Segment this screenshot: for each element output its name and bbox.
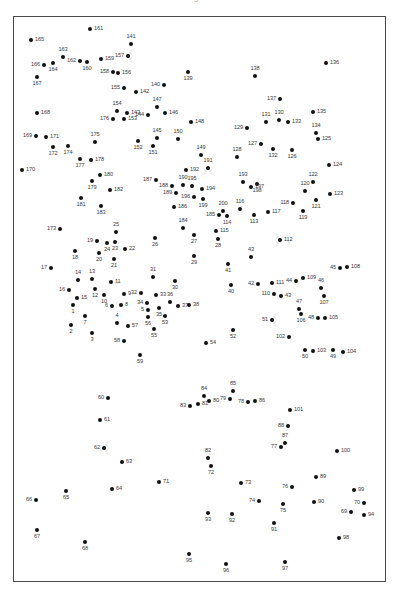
scatter-point-label: 166: [31, 62, 40, 68]
scatter-point-label: 70: [354, 500, 360, 506]
scatter-point-label: 88: [278, 423, 284, 429]
scatter-point-label: 43: [248, 247, 254, 253]
scatter-point-label: 149: [196, 145, 205, 151]
scatter-point-label: 122: [308, 172, 317, 178]
scatter-point-label: 141: [126, 34, 135, 40]
scatter-point-label: 57: [132, 323, 138, 329]
scatter-point-label: 42: [248, 281, 254, 287]
scatter-point-label: 135: [317, 109, 326, 115]
scatter-point-label: 59: [137, 359, 143, 365]
scatter-point-label: 172: [48, 151, 57, 157]
scatter-point-label: 28: [215, 243, 221, 249]
scatter-point-label: 92: [229, 518, 235, 524]
scatter-point-label: 30: [172, 285, 178, 291]
scatter-point-label: 180: [104, 172, 113, 178]
scatter-point-label: 193: [238, 172, 247, 178]
scatter-point-label: 108: [351, 264, 360, 270]
scatter-point-label: 69: [341, 509, 347, 515]
scatter-point-label: 188: [159, 183, 168, 189]
scatter-point-label: 47: [296, 299, 302, 305]
scatter-point-label: 174: [63, 150, 72, 156]
scatter-point-label: 40: [228, 289, 234, 295]
scatter-point-label: 66: [26, 497, 32, 503]
scatter-point-label: 46: [318, 278, 324, 284]
scatter-point-label: 62: [94, 445, 100, 451]
scatter-point-label: 27: [191, 239, 197, 245]
scatter-point-label: 36: [167, 292, 173, 298]
scatter-point-label: 127: [248, 141, 257, 147]
scatter-point-label: 160: [82, 66, 91, 72]
scatter-point-label: 151: [148, 150, 157, 156]
scatter-point-label: 67: [34, 534, 40, 540]
scatter-point-label: 162: [67, 58, 76, 64]
scatter-point-label: 117: [272, 209, 281, 215]
scatter-point-label: 146: [169, 110, 178, 116]
scatter-point-label: 163: [58, 47, 67, 53]
scatter-point-label: 100: [341, 448, 350, 454]
scatter-point-label: 120: [300, 181, 309, 187]
scatter-point-label: 98: [343, 535, 349, 541]
scatter-point-label: 152: [133, 145, 142, 151]
scatter-point-label: 150: [173, 129, 182, 135]
scatter-point-label: 131: [261, 112, 270, 118]
scatter-point-label: 60: [98, 395, 104, 401]
scatter-point-label: 5: [141, 307, 144, 313]
scatter-point-label: 12: [92, 293, 98, 299]
scatter-point-label: 126: [287, 154, 296, 160]
scatter-point-label: 49: [330, 354, 336, 360]
scatter-point-label: 89: [320, 474, 326, 480]
scatter-point-label: 200: [218, 201, 227, 207]
scatter-point-label: 153: [128, 116, 137, 122]
scatter-point-label: 81: [202, 401, 208, 407]
scatter-point-label: 167: [32, 81, 41, 87]
scatter-point-label: 121: [311, 204, 320, 210]
scatter-point-label: 168: [41, 110, 50, 116]
scatter-point-label: 145: [152, 128, 161, 134]
scatter-figure: Figure 165161141163157159162160166164136…: [0, 0, 398, 604]
scatter-point-label: 112: [284, 237, 293, 243]
scatter-point-label: 183: [96, 210, 105, 216]
scatter-point-label: 164: [48, 67, 57, 73]
scatter-point-label: 161: [94, 26, 103, 32]
scatter-point-label: 8: [125, 302, 128, 308]
scatter-point-label: 114: [223, 220, 232, 226]
scatter-point-label: 24: [104, 247, 110, 253]
scatter-point-label: 80: [213, 398, 219, 404]
scatter-point-label: 20: [96, 257, 102, 263]
scatter-point-label: 190: [178, 175, 187, 181]
scatter-point-label: 191: [203, 158, 212, 164]
scatter-point-label: 123: [334, 191, 343, 197]
scatter-point-label: 84: [201, 386, 207, 392]
scatter-point-label: 83: [180, 403, 186, 409]
scatter-point-label: 147: [152, 97, 161, 103]
scatter-point-label: 184: [178, 218, 187, 224]
scatter-point-label: 64: [116, 486, 122, 492]
scatter-point-label: 197: [255, 184, 264, 190]
scatter-point-label: 156: [122, 70, 131, 76]
scatter-point-label: 72: [208, 470, 214, 476]
scatter-point-label: 41: [225, 268, 231, 274]
scatter-point-label: 158: [100, 69, 109, 75]
scatter-point-label: 3: [90, 337, 93, 343]
scatter-point-label: 19: [87, 238, 93, 244]
scatter-point-label: 139: [183, 76, 192, 82]
scatter-point-label: 11: [115, 279, 121, 285]
scatter-point-label: 192: [190, 167, 199, 173]
scatter-point-label: 110: [261, 291, 270, 297]
scatter-point-label: 155: [111, 85, 120, 91]
scatter-point-label: 107: [319, 300, 328, 306]
scatter-point-label: 102: [276, 334, 285, 340]
scatter-point-label: 73: [245, 480, 251, 486]
scatter-point-label: 118: [280, 200, 289, 206]
scatter-point-label: 129: [234, 125, 243, 131]
scatter-point-label: 133: [292, 119, 301, 125]
scatter-point-label: 196: [181, 194, 190, 200]
scatter-point-label: 159: [105, 56, 114, 62]
scatter-point-label: 76: [282, 484, 288, 490]
scatter-point-label: 25: [113, 222, 119, 228]
scatter-point-label: 111: [276, 280, 284, 286]
scatter-point-label: 97: [282, 566, 288, 572]
scatter-point-label: 130: [274, 110, 283, 116]
scatter-point-label: 132: [268, 153, 277, 159]
scatter-point-label: 124: [333, 162, 342, 168]
